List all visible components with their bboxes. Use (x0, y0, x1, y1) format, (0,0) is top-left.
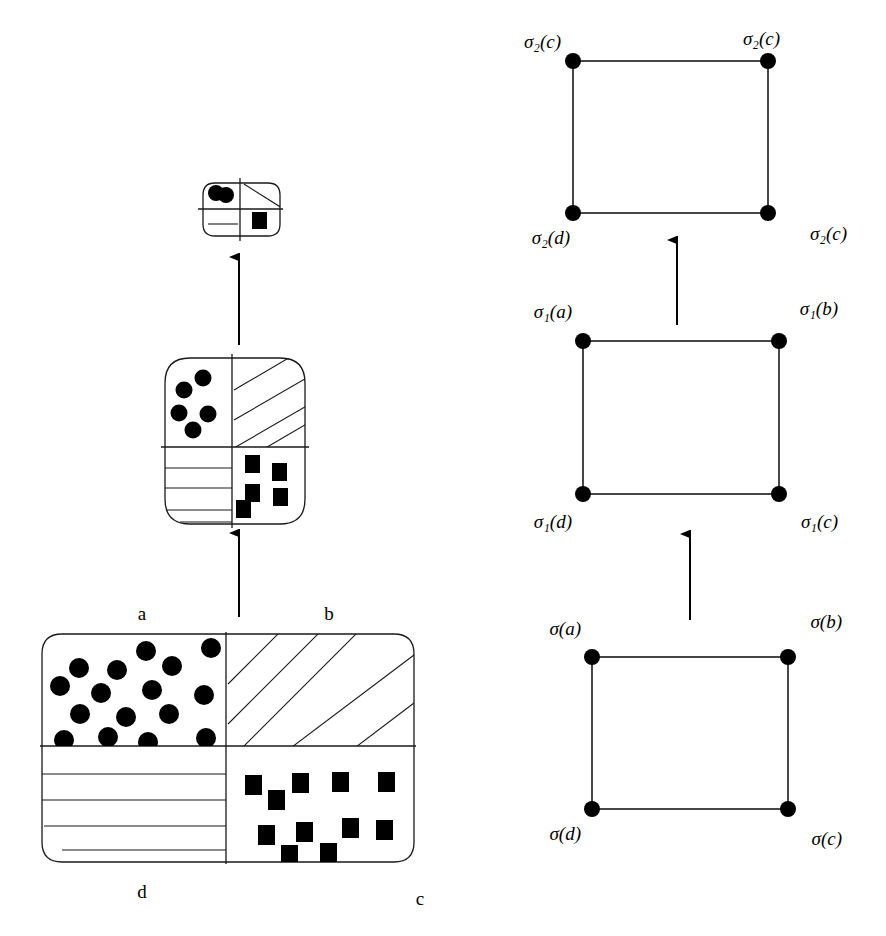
lattice-sigma2-vertex-tl (565, 53, 581, 69)
lattice-sigma2-label-tl: σ₂(c) (524, 31, 561, 53)
small-region (198, 178, 283, 241)
big-region (38, 628, 418, 865)
lattice-sigma-label-br: σ(c) (812, 828, 842, 850)
lattice-sigma-frame (592, 657, 788, 809)
lattice-sigma1-vertex-tr (771, 333, 787, 349)
lattice-sigma1-frame (583, 341, 779, 494)
lattice-sigma2-frame (573, 61, 768, 213)
lattice-sigma1-vertex-bl (575, 486, 591, 502)
lattice-sigma: σ(a) σ(b) σ(d) σ(c) (549, 611, 842, 850)
big-region-label-d: d (137, 881, 147, 902)
lattice-sigma-label-bl: σ(d) (549, 823, 581, 845)
lattice-sigma1-label-tl: σ₁(a) (534, 301, 572, 323)
lattice-sigma2-label-tr: σ₂(c) (743, 28, 780, 50)
lattice-sigma1-label-tr: σ₁(b) (800, 298, 838, 320)
lattice-sigma-vertex-tr (780, 649, 796, 665)
lattice-sigma2-label-br: σ₂(c) (810, 223, 847, 245)
diagram-canvas: a b d c σ₂(c) σ₂(c) σ₂(d) σ₂(c) σ₁(a) σ₁… (0, 0, 886, 936)
small-region-squares (252, 212, 267, 229)
lattice-sigma-label-tl: σ(a) (549, 618, 581, 640)
figure-root: a b d c σ₂(c) σ₂(c) σ₂(d) σ₂(c) σ₁(a) σ₁… (0, 0, 886, 936)
lattice-sigma1-label-bl: σ₁(d) (534, 511, 572, 533)
mid-region (160, 354, 310, 528)
lattice-sigma-vertex-tl (584, 649, 600, 665)
lattice-sigma2: σ₂(c) σ₂(c) σ₂(d) σ₂(c) (524, 28, 847, 249)
lattice-sigma-vertex-bl (584, 801, 600, 817)
lattice-sigma1: σ₁(a) σ₁(b) σ₁(d) σ₁(c) (534, 298, 838, 533)
lattice-sigma-vertex-br (780, 801, 796, 817)
lattice-sigma2-vertex-tr (760, 53, 776, 69)
lattice-sigma-label-tr: σ(b) (810, 611, 842, 633)
lattice-sigma1-vertex-br (771, 486, 787, 502)
lattice-sigma2-label-bl: σ₂(d) (532, 227, 570, 249)
lattice-sigma2-vertex-bl (565, 205, 581, 221)
lattice-sigma1-label-br: σ₁(c) (801, 511, 838, 533)
lattice-sigma1-vertex-tl (575, 333, 591, 349)
big-region-label-b: b (324, 603, 334, 624)
lattice-sigma2-vertex-br (760, 205, 776, 221)
big-region-label-c: c (416, 888, 424, 909)
big-region-label-a: a (138, 603, 147, 624)
